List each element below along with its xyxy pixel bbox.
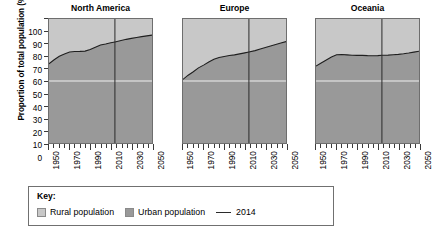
x-tick	[116, 144, 117, 148]
legend-item-urban: Urban population	[125, 207, 205, 217]
x-tick	[320, 144, 321, 148]
x-tick	[383, 144, 384, 148]
x-tick	[69, 144, 70, 150]
x-tick-label: 1950	[52, 151, 61, 169]
x-tick	[245, 144, 246, 150]
x-tick	[59, 144, 60, 148]
x-tick	[331, 144, 332, 148]
x-tick	[143, 144, 144, 148]
y-tick-20: 20	[16, 129, 42, 137]
x-tick-label: 2030	[403, 151, 412, 169]
x-tick	[256, 144, 257, 148]
y-tick-70: 70	[16, 66, 42, 74]
urban-area	[49, 35, 152, 143]
y-tick-60: 60	[16, 78, 42, 86]
x-tick	[277, 144, 278, 148]
x-tick	[287, 144, 288, 150]
legend-item-reference-year: 2014	[216, 207, 256, 217]
x-tick-label: 1970	[207, 151, 216, 169]
x-axis-labels-europe: 195019701990201020302050	[182, 151, 287, 181]
x-tick-label: 1990	[228, 151, 237, 169]
x-tick-label: 1950	[319, 151, 328, 169]
x-tick	[352, 144, 353, 148]
urban-area	[183, 42, 286, 143]
panel-oceania: Oceania 195019701990201020302050	[315, 18, 420, 144]
x-tick	[214, 144, 215, 148]
x-tick	[315, 144, 316, 150]
x-tick	[48, 144, 49, 150]
x-tick	[137, 144, 138, 148]
x-tick-label: 2050	[424, 151, 433, 169]
x-tick	[219, 144, 220, 148]
legend-label-rural: Rural population	[50, 207, 114, 217]
x-tick	[208, 144, 209, 148]
legend-item-rural: Rural population	[37, 207, 114, 217]
x-tick	[198, 144, 199, 148]
x-tick-label: 1970	[73, 151, 82, 169]
x-tick-label: 2050	[291, 151, 300, 169]
panel-north-america: North America 195019701990201020302050	[48, 18, 153, 144]
y-tick-90: 90	[16, 41, 42, 49]
x-tick	[336, 144, 337, 150]
x-tick	[389, 144, 390, 148]
x-tick	[282, 144, 283, 148]
legend-label-urban: Urban population	[138, 207, 205, 217]
x-tick	[64, 144, 65, 148]
x-tick	[378, 144, 379, 150]
x-tick	[187, 144, 188, 148]
x-tick	[394, 144, 395, 148]
x-tick	[362, 144, 363, 148]
x-tick	[106, 144, 107, 148]
panel-europe: Europe 195019701990201020302050	[182, 18, 287, 144]
panel-title-oceania: Oceania	[315, 3, 420, 13]
x-tick	[368, 144, 369, 148]
x-tick	[341, 144, 342, 148]
y-tick-40: 40	[16, 104, 42, 112]
x-tick	[399, 144, 400, 150]
x-tick	[90, 144, 91, 150]
x-tick-label: 2010	[249, 151, 258, 169]
plot-area-north-america	[48, 18, 153, 144]
x-tick	[153, 144, 154, 150]
area-chart-north-america	[49, 19, 152, 143]
legend-key: Key: Rural population Urban population 2…	[28, 186, 334, 226]
x-tick-label: 1990	[361, 151, 370, 169]
area-chart-oceania	[316, 19, 419, 143]
area-chart-europe	[183, 19, 286, 143]
legend-items: Rural population Urban population 2014	[37, 207, 267, 217]
legend-title: Key:	[37, 191, 56, 201]
panel-title-europe: Europe	[182, 3, 287, 13]
x-tick	[373, 144, 374, 148]
x-tick-label: 1950	[186, 151, 195, 169]
x-tick	[95, 144, 96, 148]
urban-area	[316, 51, 419, 143]
x-tick	[101, 144, 102, 148]
reference-line-icon	[216, 212, 231, 213]
x-tick	[250, 144, 251, 148]
x-tick	[410, 144, 411, 148]
x-tick	[420, 144, 421, 150]
x-tick	[203, 144, 204, 150]
x-tick	[148, 144, 149, 148]
x-tick-label: 2030	[270, 151, 279, 169]
x-tick	[193, 144, 194, 148]
x-tick	[85, 144, 86, 148]
x-tick	[271, 144, 272, 148]
x-tick	[266, 144, 267, 150]
x-tick-label: 1970	[340, 151, 349, 169]
x-axis-labels-oceania: 195019701990201020302050	[315, 151, 420, 181]
x-tick	[80, 144, 81, 148]
x-tick	[261, 144, 262, 148]
x-axis-labels-north-america: 195019701990201020302050	[48, 151, 153, 181]
x-axis-ticks-europe	[182, 144, 287, 150]
x-axis-ticks-oceania	[315, 144, 420, 150]
y-tick-30: 30	[16, 116, 42, 124]
x-tick	[53, 144, 54, 148]
x-tick	[132, 144, 133, 150]
y-tick-100: 100	[16, 28, 42, 36]
legend-label-2014: 2014	[236, 207, 256, 217]
x-tick	[122, 144, 123, 148]
x-tick-label: 2010	[115, 151, 124, 169]
x-tick	[357, 144, 358, 150]
